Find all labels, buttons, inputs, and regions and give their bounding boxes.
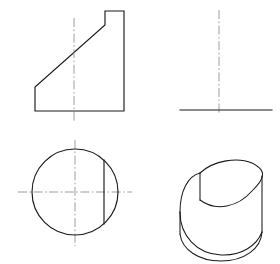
drawing-canvas [0, 0, 280, 264]
isometric-bottom-arc [180, 232, 262, 261]
front-view [35, 11, 124, 122]
isometric-angled-cut-ellipse [200, 177, 262, 207]
engineering-drawing-sheet [0, 0, 280, 264]
isometric-top-ellipse-arc [200, 160, 263, 177]
top-view [18, 140, 132, 246]
isometric-lobe-lower-arc [180, 212, 262, 255]
isometric-upper-body-left-arc [180, 173, 200, 212]
front-view-outline [35, 11, 124, 111]
isometric-view [180, 160, 263, 261]
side-view [180, 10, 272, 114]
